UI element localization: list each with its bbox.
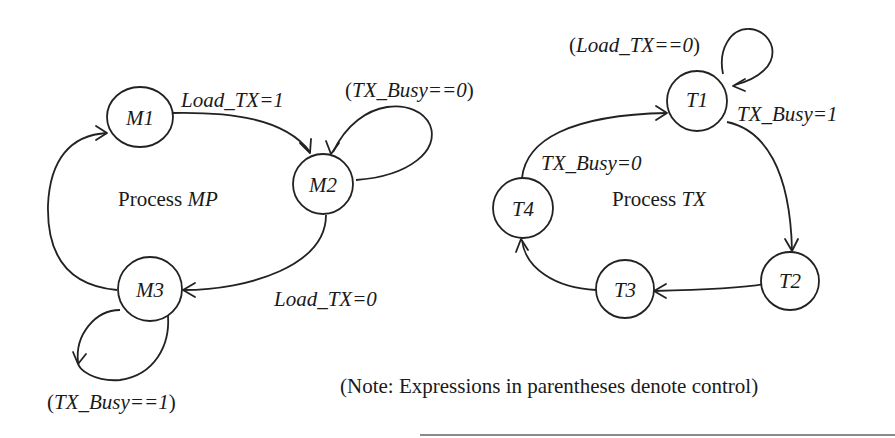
edge-label-m1-m2: Load_TX=1 [181,90,284,111]
paren-open: ( [345,78,352,102]
paren-close: ) [169,390,176,414]
state-diagram-canvas [0,0,895,438]
control-expression: Load_TX==0 [576,33,693,57]
edge-label-t4-t1: TX_Busy=0 [541,153,642,174]
arrowhead-t1-self [733,79,745,91]
control-expression: TX_Busy==1 [54,390,169,414]
edge-t1-t2 [727,122,792,250]
state-label-t1: T1 [686,90,708,111]
process-label-mp: Process MP [118,189,218,210]
state-label-m2: M2 [309,175,337,196]
paren-close: ) [467,78,474,102]
state-label-t4: T4 [512,199,534,220]
paren-close: ) [693,33,700,57]
edge-label-t1-t2: TX_Busy=1 [737,104,838,125]
state-label-m3: M3 [136,280,164,301]
process-word: Process [118,187,187,211]
edge-t1-self [722,29,773,85]
paren-open: ( [569,33,576,57]
edge-t3-t4 [522,240,596,290]
legend-note: (Note: Expressions in parentheses denote… [340,376,758,397]
paren-open: ( [47,390,54,414]
edge-t2-t3 [654,281,776,291]
edge-m2-m3 [183,215,326,290]
edge-m3-m1 [48,133,117,290]
control-expression: TX_Busy==0 [352,78,467,102]
edge-label-m2-self: (TX_Busy==0) [345,80,474,101]
edge-label-m2-m3: Load_TX=0 [274,289,377,310]
arrowhead-t3-t4 [516,239,528,252]
bottom-divider [420,434,895,436]
process-label-tx: Process TX [612,189,706,210]
process-name: MP [187,187,217,211]
state-label-m1: M1 [126,108,154,129]
edge-m1-m2 [173,113,310,152]
process-word: Process [612,187,681,211]
state-label-t2: T2 [779,271,801,292]
process-name: TX [681,187,706,211]
edge-label-m3-self: (TX_Busy==1) [47,392,176,413]
arrowhead-m3-self [73,352,86,364]
state-label-t3: T3 [614,280,636,301]
edge-label-t1-self: (Load_TX==0) [569,35,700,56]
